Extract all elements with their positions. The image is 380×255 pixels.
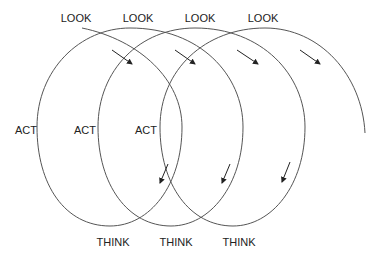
think-label-2: THINK xyxy=(160,237,193,248)
spiral-end-arc xyxy=(265,28,365,133)
act-label-2: ACT xyxy=(74,125,96,136)
arrow-icon xyxy=(222,164,230,183)
act-label-1: ACT xyxy=(15,125,37,136)
think-label-1: THINK xyxy=(97,237,130,248)
think-label-3: THINK xyxy=(223,237,256,248)
arrow-icon xyxy=(112,50,132,64)
look-label-2: LOOK xyxy=(123,13,154,24)
act-label-3: ACT xyxy=(135,125,157,136)
spiral-loop-2 xyxy=(98,28,243,226)
spiral-diagram xyxy=(0,0,380,255)
look-label-3: LOOK xyxy=(185,13,216,24)
arrow-icon xyxy=(300,50,320,64)
arrow-icon xyxy=(282,162,290,182)
look-label-4: LOOK xyxy=(248,13,279,24)
arrow-icon xyxy=(237,50,258,64)
look-label-1: LOOK xyxy=(61,13,92,24)
